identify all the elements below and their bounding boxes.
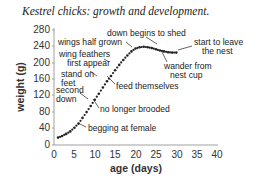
data-point: [153, 48, 155, 50]
ann-second-down-2: down: [56, 94, 77, 104]
data-point: [159, 49, 162, 52]
ann-no-longer-brooded: no longer brooded: [100, 104, 170, 114]
data-point: [61, 135, 64, 138]
chart-canvas: 0 40 80 120 160 200 240 280 0 5 10 15 20…: [0, 0, 257, 187]
annotations: begging at female no longer brooded seco…: [56, 28, 243, 133]
x-tick-30: 30: [171, 149, 183, 160]
ann-wings-half-grown: wings half grown: [57, 37, 122, 47]
data-point: [100, 90, 102, 92]
y-tick-80: 80: [39, 106, 51, 117]
data-point: [102, 86, 105, 89]
data-point: [118, 64, 121, 67]
y-tick-labels: 0 40 80 120 160 200 240 280: [33, 24, 50, 150]
x-axis-label: age (days): [110, 162, 162, 174]
data-point: [104, 83, 106, 85]
data-point: [146, 46, 149, 49]
x-tick-15: 15: [109, 149, 121, 160]
y-tick-40: 40: [39, 122, 51, 133]
ann-down-begins-to-shed: down begins to shed: [107, 28, 186, 38]
data-point: [163, 50, 166, 53]
data-point: [134, 47, 137, 50]
data-point: [65, 133, 68, 136]
data-point: [84, 114, 86, 116]
data-point: [167, 51, 170, 54]
y-axis-label: weight (g): [14, 62, 26, 113]
x-tick-0: 0: [51, 149, 57, 160]
y-tick-160: 160: [33, 73, 50, 84]
x-tick-10: 10: [89, 149, 101, 160]
data-point: [98, 92, 101, 95]
data-point: [92, 102, 94, 104]
y-tick-280: 280: [33, 24, 50, 35]
ann-stand-on-feet-2: feet: [61, 78, 76, 88]
ann-wing-feathers-2: first appear: [67, 58, 110, 68]
x-tick-20: 20: [130, 149, 142, 160]
data-point: [151, 47, 154, 50]
x-tick-5: 5: [71, 149, 77, 160]
y-tick-120: 120: [33, 89, 50, 100]
ann-leave-2: the nest: [202, 46, 233, 56]
data-point: [89, 105, 92, 108]
ann-feed-themselves: feed themselves: [116, 81, 179, 91]
y-tick-240: 240: [33, 40, 50, 51]
data-point: [114, 69, 117, 72]
data-point: [85, 111, 88, 114]
data-point: [175, 51, 178, 54]
data-point: [173, 52, 175, 54]
data-point: [67, 132, 69, 134]
data-point: [138, 46, 141, 49]
data-point: [106, 80, 109, 83]
data-point: [126, 54, 129, 57]
data-point: [136, 47, 138, 49]
data-point: [69, 130, 72, 133]
y-tick-200: 200: [33, 57, 50, 68]
x-tick-25: 25: [150, 149, 162, 160]
data-point: [142, 46, 145, 49]
x-tick-35: 35: [191, 149, 203, 160]
data-point: [128, 52, 130, 54]
data-point: [124, 57, 126, 59]
data-point: [132, 49, 134, 51]
data-point: [116, 67, 118, 69]
data-point: [73, 127, 76, 130]
data-point: [120, 61, 122, 63]
x-tick-40: 40: [211, 149, 223, 160]
data-point: [122, 59, 125, 62]
data-point: [96, 96, 98, 98]
data-point: [141, 46, 143, 48]
data-point: [81, 117, 84, 120]
data-point: [75, 125, 77, 127]
data-point: [112, 72, 114, 74]
data-point: [169, 51, 171, 53]
data-point: [88, 108, 90, 110]
data-point: [110, 75, 113, 78]
data-point: [71, 129, 73, 131]
data-point: [79, 120, 81, 122]
ann-begging-at-female: begging at female: [88, 123, 157, 133]
data-point: [130, 50, 133, 53]
x-tick-labels: 0 5 10 15 20 25 30 35 40: [51, 149, 223, 160]
data-point: [155, 48, 158, 51]
y-tick-0: 0: [44, 139, 50, 150]
ann-wander-2: nest cup: [170, 70, 203, 80]
